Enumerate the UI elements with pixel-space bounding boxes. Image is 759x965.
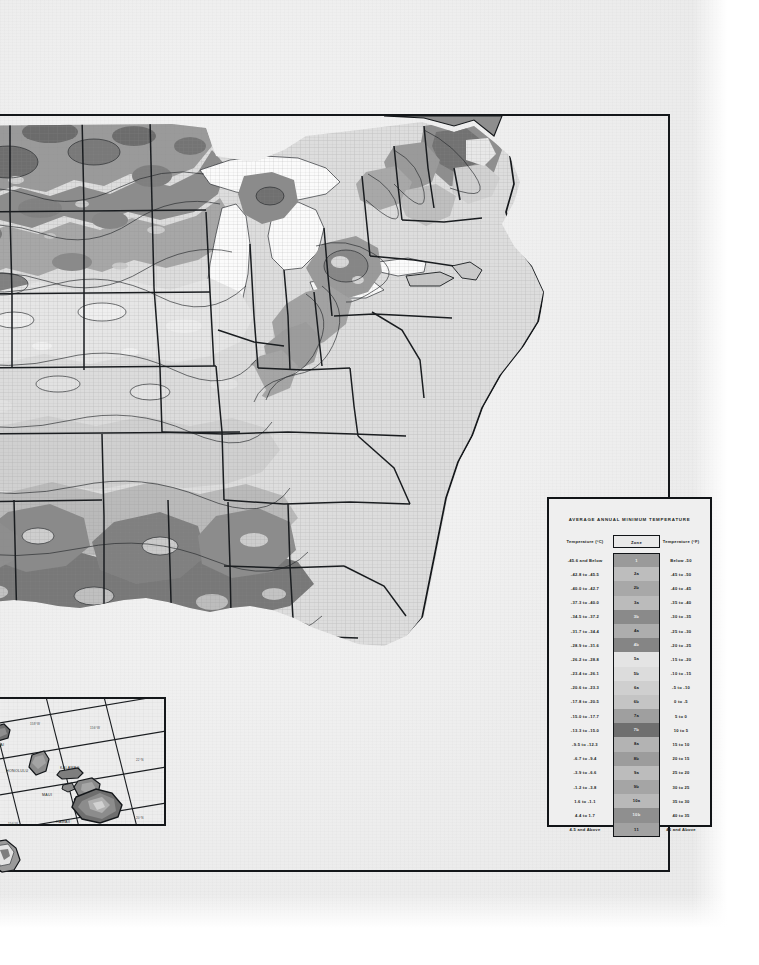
legend-header-celsius: Temperature (°C) [557, 539, 613, 544]
legend-zone-swatch: 10a [613, 794, 660, 808]
legend-row: 4.5 and Above1145 and Above [549, 823, 710, 837]
legend-celsius-value: -28.9 to -31.6 [557, 643, 613, 648]
legend-celsius-value: 4.4 to 1.7 [557, 813, 613, 818]
legend-rows: -45.6 and Below1Below -50-42.8 to -45.52… [549, 553, 710, 837]
legend-zone-swatch: 6a [613, 681, 660, 695]
legend-celsius-value: -15.0 to -17.7 [557, 714, 613, 719]
legend-zone-swatch: 2b [613, 581, 660, 595]
legend-row: -6.7 to -9.48b20 to 15 [549, 752, 710, 766]
legend-zone-swatch: 5a [613, 652, 660, 666]
inset-label-hawaii: HAWAII [56, 820, 70, 824]
legend-celsius-value: 1.6 to -1.1 [557, 799, 613, 804]
legend-title: AVERAGE ANNUAL MINIMUM TEMPERATURE [549, 517, 710, 522]
legend-zone-swatch: 7a [613, 709, 660, 723]
legend-zone-swatch: 8a [613, 737, 660, 751]
legend-celsius-value: -45.6 and Below [557, 558, 613, 563]
legend-zone-swatch: 4b [613, 638, 660, 652]
legend-header-fahrenheit: Temperature (°F) [660, 539, 702, 544]
legend-row: -15.0 to -17.77a5 to 0 [549, 709, 710, 723]
legend-celsius-value: -6.7 to -9.4 [557, 756, 613, 761]
legend-zone-swatch: 9a [613, 766, 660, 780]
legend-fahrenheit-value: 5 to 0 [660, 714, 702, 719]
inset-label-kalawao: KALAWAO [60, 766, 80, 770]
legend-row: -34.5 to -37.23b-30 to -35 [549, 610, 710, 624]
svg-text:20°N: 20°N [136, 816, 144, 820]
legend-fahrenheit-value: Below -50 [660, 558, 702, 563]
legend-row: -23.4 to -26.15b-10 to -15 [549, 667, 710, 681]
legend-row: 4.4 to 1.710b40 to 35 [549, 808, 710, 822]
legend-celsius-value: -1.2 to -3.8 [557, 785, 613, 790]
inset-label-maui: MAUI [42, 793, 52, 797]
legend-celsius-value: -9.5 to -12.3 [557, 742, 613, 747]
legend-row: -3.9 to -6.69a25 to 20 [549, 766, 710, 780]
legend-zone-swatch: 6b [613, 695, 660, 709]
legend-zone-swatch: 9b [613, 780, 660, 794]
page-edge-fade-bottom [0, 894, 733, 934]
legend-fahrenheit-value: 40 to 35 [660, 813, 702, 818]
legend-fahrenheit-value: 10 to 5 [660, 728, 702, 733]
legend-fahrenheit-value: -10 to -15 [660, 671, 702, 676]
legend-fahrenheit-value: 25 to 20 [660, 770, 702, 775]
legend-row: -37.3 to -40.03a-35 to -40 [549, 596, 710, 610]
legend-row: 1.6 to -1.110a35 to 30 [549, 794, 710, 808]
legend-row: -31.7 to -34.44a-25 to -30 [549, 624, 710, 638]
legend-zone-swatch: 3b [613, 610, 660, 624]
legend-zone-swatch: 8b [613, 752, 660, 766]
legend-celsius-value: 4.5 and Above [557, 827, 613, 832]
legend-celsius-value: -20.6 to -23.3 [557, 685, 613, 690]
legend-zone-swatch: 5b [613, 667, 660, 681]
hawaii-inset-map[interactable]: KAUAI HONOLULU KALAWAO MAUI HAWAII 160°W… [0, 697, 166, 826]
legend-celsius-value: -23.4 to -26.1 [557, 671, 613, 676]
legend-fahrenheit-value: -30 to -35 [660, 614, 702, 619]
legend-fahrenheit-value: 20 to 15 [660, 756, 702, 761]
inset-label-honolulu: HONOLULU [6, 769, 28, 773]
legend-row: -9.5 to -12.38a15 to 10 [549, 737, 710, 751]
svg-text:156°W: 156°W [8, 822, 18, 826]
legend-header-row: Temperature (°C) Zone Temperature (°F) [549, 535, 710, 548]
legend-celsius-value: -34.5 to -37.2 [557, 614, 613, 619]
legend-celsius-value: -17.8 to -20.5 [557, 699, 613, 704]
legend-fahrenheit-value: 35 to 30 [660, 799, 702, 804]
legend-row: -1.2 to -3.89b30 to 25 [549, 780, 710, 794]
svg-text:22°N: 22°N [136, 758, 144, 762]
legend-zone-swatch: 3a [613, 596, 660, 610]
legend-row: -13.3 to -15.07b10 to 5 [549, 723, 710, 737]
legend-fahrenheit-value: -20 to -25 [660, 643, 702, 648]
legend-celsius-value: -26.2 to -28.8 [557, 657, 613, 662]
legend-celsius-value: -31.7 to -34.4 [557, 629, 613, 634]
legend-zone-swatch: 10b [613, 808, 660, 822]
legend-zone-swatch: 2a [613, 567, 660, 581]
legend-row: -28.9 to -31.64b-20 to -25 [549, 638, 710, 652]
legend-fahrenheit-value: -45 to -50 [660, 572, 702, 577]
svg-text:156°W: 156°W [90, 726, 100, 730]
legend-row: -20.6 to -23.36a-5 to -10 [549, 681, 710, 695]
legend-fahrenheit-value: -40 to -45 [660, 586, 702, 591]
legend-fahrenheit-value: 15 to 10 [660, 742, 702, 747]
legend-celsius-value: -40.0 to -42.7 [557, 586, 613, 591]
legend-celsius-value: -13.3 to -15.0 [557, 728, 613, 733]
legend-fahrenheit-value: 0 to -5 [660, 699, 702, 704]
legend-fahrenheit-value: -25 to -30 [660, 629, 702, 634]
legend-row: -17.8 to -20.56b0 to -5 [549, 695, 710, 709]
legend-celsius-value: -42.8 to -45.5 [557, 572, 613, 577]
legend-row: -40.0 to -42.72b-40 to -45 [549, 581, 710, 595]
legend-row: -42.8 to -45.52a-45 to -50 [549, 567, 710, 581]
legend-fahrenheit-value: -5 to -10 [660, 685, 702, 690]
legend-zone-swatch: 7b [613, 723, 660, 737]
legend-fahrenheit-value: 45 and Above [660, 827, 702, 832]
coastline-fleck [0, 838, 24, 874]
legend-zone-swatch: 4a [613, 624, 660, 638]
legend-header-zone: Zone [613, 535, 660, 548]
legend-fahrenheit-value: -15 to -20 [660, 657, 702, 662]
svg-text:158°W: 158°W [30, 722, 40, 726]
inset-label-kauai: KAUAI [0, 743, 4, 747]
legend-row: -26.2 to -28.85a-15 to -20 [549, 652, 710, 666]
legend-fahrenheit-value: 30 to 25 [660, 785, 702, 790]
legend-zone-swatch: 1 [613, 553, 660, 567]
legend-celsius-value: -37.3 to -40.0 [557, 600, 613, 605]
legend-row: -45.6 and Below1Below -50 [549, 553, 710, 567]
legend-celsius-value: -3.9 to -6.6 [557, 770, 613, 775]
legend-fahrenheit-value: -35 to -40 [660, 600, 702, 605]
legend-zone-swatch: 11 [613, 823, 660, 837]
map-legend: AVERAGE ANNUAL MINIMUM TEMPERATURE Tempe… [547, 497, 712, 827]
